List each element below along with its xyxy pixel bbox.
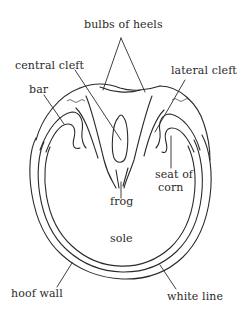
label-central-cleft: central cleft (15, 60, 84, 72)
bars (40, 112, 200, 153)
label-hoof-wall: hoof wall (11, 288, 63, 300)
right-lateral-cleft (144, 110, 164, 156)
label-frog: frog (110, 196, 133, 208)
hoof-diagram: bulbs of heels central cleft lateral cle… (0, 0, 240, 324)
left-bar-outer (40, 112, 86, 150)
bulbs-top-arc (80, 84, 160, 90)
leader-bulbs-right (121, 38, 145, 92)
label-bar: bar (29, 84, 48, 96)
label-seat-of-corn-line2: corn (158, 182, 184, 194)
frog-apex-left (116, 170, 119, 188)
leader-lines (44, 38, 185, 289)
label-seat-of-corn-line1: seat of (155, 169, 193, 181)
label-bulbs-of-heels: bulbs of heels (84, 19, 163, 31)
label-white-line: white line (167, 291, 223, 303)
hoof-drawing (0, 0, 240, 324)
label-lateral-cleft: lateral cleft (171, 65, 237, 77)
right-heel-hatch (172, 99, 190, 102)
left-heel-hatch (67, 100, 85, 103)
leader-bulbs-left (103, 38, 121, 90)
frog-shape (76, 96, 164, 188)
label-sole: sole (110, 233, 133, 245)
leader-hoof-wall (57, 263, 72, 287)
